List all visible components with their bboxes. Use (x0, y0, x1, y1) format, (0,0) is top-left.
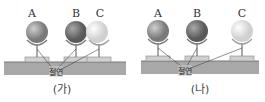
sphere-label-b: B (190, 7, 204, 20)
insulator-label: 절연 (49, 66, 63, 77)
panel-caption: (나) (180, 80, 220, 96)
sphere-label-c: C (235, 7, 249, 20)
sphere-label-b: B (69, 7, 83, 20)
sphere-label-a: A (25, 7, 39, 20)
sphere-label-a: A (151, 7, 165, 20)
panel-ga: A B C 절연 (가) (0, 0, 130, 102)
panel-na: A B C 절연 (나) (135, 0, 265, 102)
sphere-label-c: C (93, 7, 107, 20)
insulator-label: 절연 (178, 65, 192, 76)
panel-caption: (가) (42, 80, 82, 96)
